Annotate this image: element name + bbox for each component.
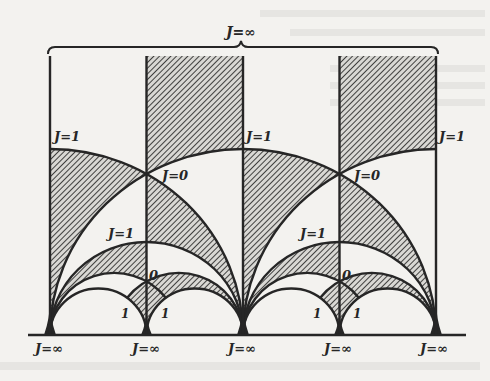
label-j1-upper-mid: J=1 xyxy=(243,129,272,144)
modular-diagram: J=∞ J=1 J=0 J=1 J=0 J=1 J=1 J=1 0 0 1 1 … xyxy=(0,0,490,381)
label-one-b: 1 xyxy=(161,307,169,321)
label-cusp-1: J=∞ xyxy=(417,341,448,356)
curly-brace xyxy=(48,41,438,54)
label-zero-right: 0 xyxy=(342,268,351,283)
label-cusp-0: J=∞ xyxy=(225,341,256,356)
label-one-d: 1 xyxy=(353,307,361,321)
label-cusp-minus-half: J=∞ xyxy=(129,341,160,356)
label-zero-left: 0 xyxy=(149,268,158,283)
label-j1-upper-right: J=1 xyxy=(436,129,465,144)
label-j1-upper-left: J=1 xyxy=(51,129,80,144)
shaded-fundamental-rect xyxy=(147,56,244,174)
label-one-c: 1 xyxy=(313,307,321,321)
label-j0-left: J=0 xyxy=(159,168,188,183)
label-one-a: 1 xyxy=(121,307,129,321)
label-j0-right: J=0 xyxy=(351,168,380,183)
label-j1-lower-right: J=1 xyxy=(297,226,326,241)
label-cusp-half: J=∞ xyxy=(321,341,352,356)
label-top-j-infinity: J=∞ xyxy=(223,24,256,40)
modular-tessellation-svg: J=∞ J=1 J=0 J=1 J=0 J=1 J=1 J=1 0 0 1 1 … xyxy=(0,0,490,381)
label-j1-lower-left: J=1 xyxy=(105,226,134,241)
label-cusp-minus-1: J=∞ xyxy=(32,341,63,356)
